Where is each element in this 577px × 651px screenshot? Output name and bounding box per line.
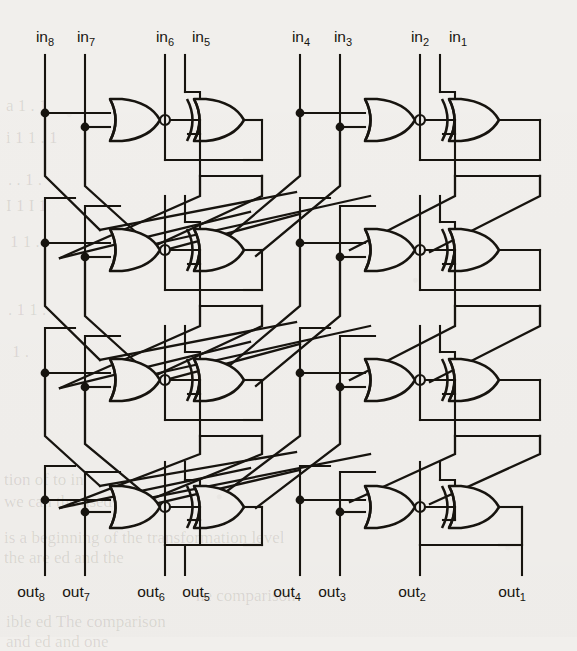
output-label-out4: out4 bbox=[273, 583, 301, 603]
input-label-in5: in5 bbox=[192, 28, 210, 48]
input-label-in1: in1 bbox=[449, 28, 467, 48]
input-label-in4: in4 bbox=[292, 28, 310, 48]
output-label-out7: out7 bbox=[62, 583, 90, 603]
input-label-in8: in8 bbox=[36, 28, 54, 48]
output-labels: out8out7out6out5out4out3out2out1 bbox=[17, 583, 526, 603]
stage-4 bbox=[41, 462, 522, 575]
stage-1-cell-left bbox=[41, 55, 262, 176]
stage-1 bbox=[41, 55, 540, 176]
stage-4-cell-left bbox=[41, 462, 262, 575]
input-label-in7: in7 bbox=[77, 28, 95, 48]
stage-3-cell-right bbox=[296, 326, 540, 436]
input-labels: in8in7in6in5in4in3in2in1 bbox=[36, 28, 467, 48]
output-label-out8: out8 bbox=[17, 583, 45, 603]
output-label-out6: out6 bbox=[137, 583, 165, 603]
output-label-out1: out1 bbox=[498, 583, 526, 603]
output-label-out5: out5 bbox=[182, 583, 210, 603]
stage-4-cell-right bbox=[296, 462, 522, 575]
output-label-out2: out2 bbox=[398, 583, 426, 603]
stage-1-cell-right bbox=[296, 55, 540, 176]
input-label-in2: in2 bbox=[411, 28, 429, 48]
input-label-in6: in6 bbox=[156, 28, 174, 48]
input-label-in3: in3 bbox=[334, 28, 352, 48]
stage-2-cell-right bbox=[296, 196, 540, 306]
output-label-out3: out3 bbox=[318, 583, 346, 603]
